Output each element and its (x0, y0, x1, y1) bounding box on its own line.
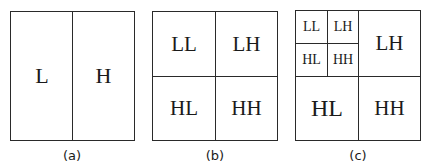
subband-LH1: LH (359, 11, 420, 76)
subband-HH1: HH (359, 77, 420, 140)
subband-H: H (73, 12, 134, 140)
caption-a: (a) (42, 148, 102, 163)
subband-LH: LH (216, 12, 277, 76)
subband-LL: LL (153, 12, 215, 76)
subband-HL: HL (153, 77, 215, 140)
subband-HL2: HL (296, 44, 327, 76)
subband-HH2: HH (328, 44, 358, 76)
subband-LH2: LH (328, 11, 358, 43)
panel-b: LL LH HL HH (152, 11, 278, 141)
subband-HL1: HL (296, 77, 358, 140)
panel-c: LL LH HL HH LH HL HH (295, 10, 421, 141)
caption-c: (c) (328, 148, 388, 163)
caption-b: (b) (185, 148, 245, 163)
subband-LL2: LL (296, 11, 327, 43)
subband-HH: HH (216, 77, 277, 140)
panel-a: L H (10, 11, 135, 141)
subband-L: L (11, 12, 73, 140)
